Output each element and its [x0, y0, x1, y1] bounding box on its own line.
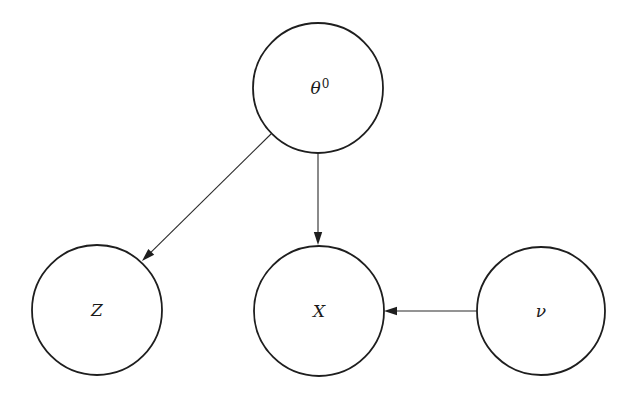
- directed-graph-diagram: θ0ZXν: [0, 0, 635, 398]
- edge-theta0-to-X: [314, 153, 322, 245]
- node-X: X: [254, 246, 384, 376]
- arrowhead-icon: [384, 307, 397, 315]
- node-nu: ν: [477, 247, 605, 375]
- node-label: Z: [90, 300, 104, 320]
- node-Z: Z: [32, 245, 162, 375]
- edge-line: [150, 134, 271, 253]
- node-theta0: θ0: [253, 23, 383, 153]
- node-label: ν: [536, 301, 546, 321]
- node-superscript: 0: [322, 77, 330, 91]
- node-label: X: [311, 301, 326, 321]
- arrowhead-icon: [314, 232, 322, 245]
- edge-theta0-to-Z: [142, 134, 271, 261]
- edge-nu-to-X: [384, 307, 477, 315]
